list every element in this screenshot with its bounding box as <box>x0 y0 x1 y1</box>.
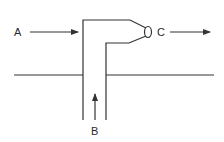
pipe-diagram: A C B <box>0 0 224 142</box>
nozzle-outlet <box>145 27 152 38</box>
label-c: C <box>157 26 165 38</box>
pipe <box>83 20 146 120</box>
label-b: B <box>91 125 98 137</box>
label-a: A <box>14 26 22 38</box>
